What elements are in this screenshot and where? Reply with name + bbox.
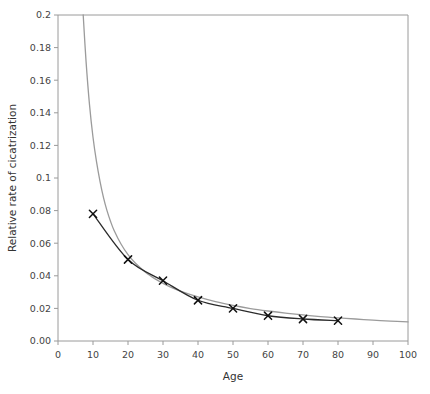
y-tick-label: 0.12	[30, 140, 51, 151]
x-tick-label: 80	[332, 349, 344, 360]
x-tick-label: 70	[297, 349, 309, 360]
y-tick-label: 0.06	[30, 238, 51, 249]
y-axis-title: Relative rate of cicatrization	[6, 104, 18, 252]
x-tick-label: 90	[367, 349, 379, 360]
y-tick-label: 0.18	[30, 42, 51, 53]
y-tick-label: 0.08	[30, 205, 51, 216]
y-tick-label: 0.02	[30, 303, 51, 314]
x-tick-label: 100	[399, 349, 417, 360]
y-tick-label: 0.16	[30, 75, 51, 86]
x-tick-label: 20	[122, 349, 134, 360]
x-axis-title: Age	[223, 370, 243, 382]
y-tick-label: 0.2	[36, 9, 51, 20]
x-tick-label: 40	[192, 349, 204, 360]
y-tick-label: 0.1	[36, 172, 51, 183]
x-tick-label: 10	[87, 349, 99, 360]
x-tick-label: 50	[227, 349, 239, 360]
chart-background	[0, 0, 430, 394]
cicatrization-rate-chart: 0.000.020.040.060.080.10.120.140.160.180…	[0, 0, 430, 394]
x-tick-label: 0	[55, 349, 61, 360]
y-tick-label: 0.14	[30, 107, 51, 118]
y-tick-label: 0.04	[30, 270, 51, 281]
x-tick-label: 30	[157, 349, 169, 360]
y-tick-label: 0.00	[30, 335, 51, 346]
x-tick-label: 60	[262, 349, 274, 360]
chart-figure: 0.000.020.040.060.080.10.120.140.160.180…	[0, 0, 430, 394]
